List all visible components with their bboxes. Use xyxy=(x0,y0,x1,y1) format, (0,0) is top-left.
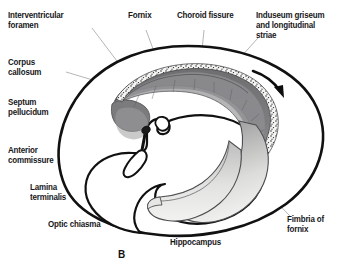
interventricular-foramen xyxy=(155,117,169,131)
label-corpus-callosum: Corpus callosum xyxy=(8,57,41,77)
label-anterior-commissure: Anterior commissure xyxy=(8,145,53,165)
figure-caption: B xyxy=(118,249,125,260)
label-hippocampus: Hippocampus xyxy=(170,237,221,247)
label-interventricular-foramen: Interventricular foramen xyxy=(8,10,64,30)
label-septum-pellucidum: Septum pellucidum xyxy=(8,97,49,117)
label-lamina-terminalis: Lamina terminalis xyxy=(30,182,66,202)
label-induseum-griseum: Induseum griseum and longitudinal striae xyxy=(256,10,324,41)
label-choroid-fissure: Choroid fissure xyxy=(177,10,234,20)
label-fornix: Fornix xyxy=(128,10,151,20)
label-fimbria-of-fornix: Fimbria of fornix xyxy=(287,214,324,234)
label-optic-chiasma: Optic chiasma xyxy=(48,219,100,229)
